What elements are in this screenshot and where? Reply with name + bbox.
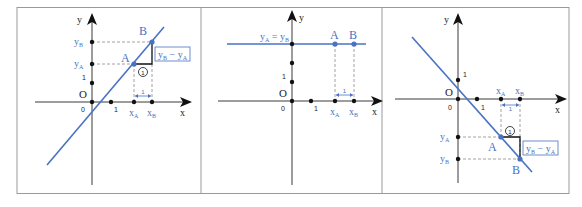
point-a-label: A [488, 140, 497, 154]
unit-x-label: 1 [114, 106, 118, 113]
point-a [131, 61, 136, 66]
origin-label: O [279, 87, 287, 99]
panel-constant: 1 A B yA = yB y x O 0 1 1 xA xB [218, 12, 381, 185]
unit-y-label: 1 [282, 73, 286, 80]
y-axis-label: y [444, 14, 449, 25]
xb-label: xB [349, 106, 358, 118]
x-axis-label: x [372, 106, 377, 117]
point-b-label: B [139, 24, 147, 38]
point-b [149, 39, 154, 44]
x-axis-label: x [555, 104, 560, 115]
xb-label: xB [515, 85, 524, 97]
zero-label: 0 [281, 105, 285, 112]
origin-label: O [79, 88, 87, 100]
xa-label: xA [330, 106, 340, 118]
span-label: 1 [509, 106, 513, 112]
point-a [332, 41, 337, 46]
xa-label: xA [496, 85, 506, 97]
unit-y-label: 1 [82, 74, 86, 81]
xa-label: xA [129, 107, 139, 119]
point-a [498, 134, 503, 139]
point-a-label: A [330, 28, 339, 42]
equal-y-label: yA = yB [260, 31, 289, 43]
zero-label: 0 [81, 106, 85, 113]
yb-label: yB [74, 36, 83, 48]
point-a-label: A [121, 51, 130, 65]
slope-diagram: 1 1 yB − yA A B y x O 0 1 1 yA yB xA xB [0, 0, 582, 207]
y-axis-label: y [299, 12, 304, 23]
unit-x-label: 1 [481, 104, 485, 111]
point-b [517, 156, 522, 161]
point-b-label: B [349, 28, 357, 42]
zero-label: 0 [448, 104, 452, 111]
yb-label: yB [440, 153, 449, 165]
panel-increasing: 1 1 yB − yA A B y x O 0 1 1 yA yB xA xB [35, 14, 190, 185]
unit-y-label: 1 [463, 71, 467, 78]
point-b [351, 41, 356, 46]
y-axis-label: y [77, 14, 82, 25]
xb-label: xB [147, 107, 156, 119]
span-label: 1 [343, 88, 347, 94]
x-axis-label: x [180, 107, 185, 118]
ya-label: yA [74, 58, 84, 70]
decreasing-line [412, 37, 532, 172]
unit-x-label: 1 [314, 105, 318, 112]
point-b-label: B [512, 163, 520, 177]
panel-decreasing: 1 1 yB − yA A B y x O 0 1 1 xA xB yA yB [395, 14, 565, 183]
ya-label: yA [440, 131, 450, 143]
origin-label: O [445, 86, 453, 98]
span-label: 1 [141, 89, 145, 95]
